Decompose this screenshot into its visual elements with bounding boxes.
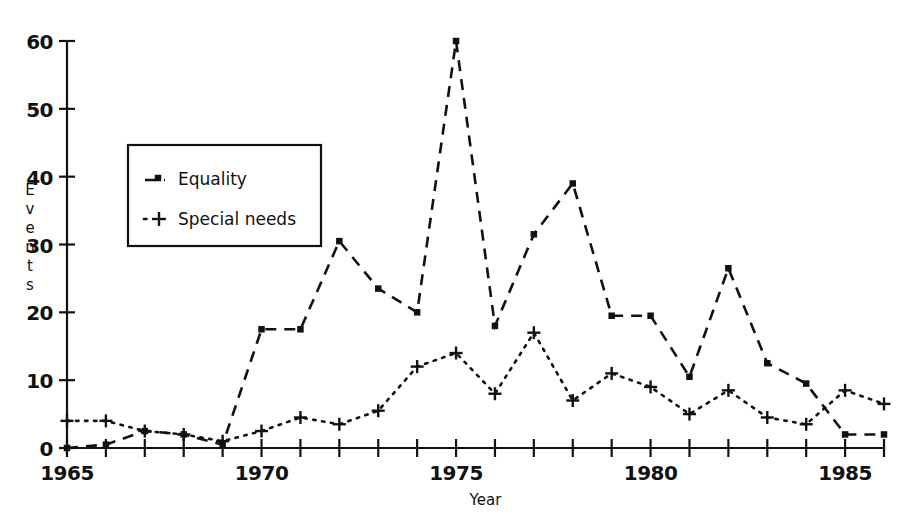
data-point-marker-square (297, 326, 304, 333)
data-point-marker-plus (99, 414, 112, 427)
data-point-marker-plus (216, 435, 229, 448)
data-point-marker-square (453, 38, 460, 45)
y-axis-title: Events (25, 181, 35, 294)
data-point-marker-plus (177, 428, 190, 441)
legend-label: Special needs (178, 209, 296, 229)
data-point-marker-plus (527, 326, 540, 339)
y-tick-label: 0 (40, 437, 53, 461)
x-tick-label: 1980 (624, 461, 678, 485)
y-axis-title-char: v (26, 200, 35, 218)
data-point-marker-plus (878, 397, 891, 410)
y-tick-label: 20 (26, 301, 53, 325)
y-tick-label: 10 (26, 369, 53, 393)
data-point-marker-square (570, 180, 577, 187)
data-point-marker-square (842, 431, 849, 438)
data-point-marker-plus (839, 384, 852, 397)
data-point-marker-square (336, 238, 343, 245)
data-point-marker-square (881, 431, 888, 438)
chart-canvas: 0102030405060 19651970197519801985 Event… (0, 0, 912, 527)
data-point-marker-plus (333, 418, 346, 431)
legend-box (128, 145, 321, 246)
y-tick-label: 50 (26, 98, 53, 122)
line-chart-events-by-year: 0102030405060 19651970197519801985 Event… (0, 0, 912, 527)
y-tick-label: 60 (26, 30, 53, 54)
data-point-marker-square (375, 285, 382, 292)
data-point-marker-square (64, 445, 71, 452)
y-axis-title-char: e (25, 219, 34, 237)
y-axis-title-char: t (27, 257, 33, 275)
x-tick-label: 1975 (429, 461, 483, 485)
y-axis-title-char: s (26, 276, 34, 294)
data-point-marker-square (686, 374, 693, 381)
data-point-marker-square (414, 309, 421, 316)
series-markers-special-needs (61, 326, 891, 448)
y-axis-title-char: n (25, 238, 35, 256)
data-point-marker-plus (294, 411, 307, 424)
data-point-marker-square (647, 312, 654, 319)
data-point-marker-plus (722, 384, 735, 397)
data-point-marker-square (803, 380, 810, 387)
data-point-marker-square (608, 312, 615, 319)
data-point-marker-plus (255, 425, 268, 438)
y-axis-title-char: E (25, 181, 34, 199)
data-point-marker-plus (138, 425, 151, 438)
x-tick-label: 1965 (40, 461, 94, 485)
data-point-marker-square (258, 326, 265, 333)
data-point-marker-square (492, 323, 499, 330)
data-point-marker-square (725, 265, 732, 272)
data-point-marker-square (764, 360, 771, 367)
x-axis-title: Year (469, 491, 503, 509)
legend-label: Equality (178, 169, 247, 189)
x-tick-label: 1970 (235, 461, 289, 485)
x-axis: 19651970197519801985 (40, 439, 884, 485)
data-point-marker-square (531, 231, 538, 238)
data-point-marker-square (103, 441, 110, 448)
data-point-marker-plus (61, 414, 74, 427)
data-point-marker-square (155, 175, 162, 182)
chart-legend: EqualitySpecial needs (128, 145, 321, 246)
x-axis-title: Year (469, 491, 503, 509)
x-tick-label: 1985 (818, 461, 872, 485)
data-point-marker-plus (761, 411, 774, 424)
